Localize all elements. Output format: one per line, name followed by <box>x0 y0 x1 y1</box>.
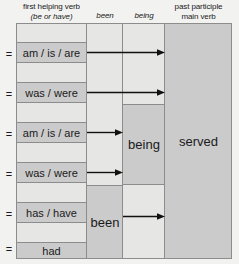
equals-sign-6: = <box>3 243 15 255</box>
helping-verb-cell-had: had <box>16 242 87 259</box>
diagram-grid: am / is / are was / were am / is / are w… <box>16 23 232 259</box>
grid-hline-bottom <box>16 258 232 259</box>
merged-cell-being: being <box>123 104 165 185</box>
grid-hline-top <box>16 23 232 24</box>
merged-cell-been: been <box>87 185 123 258</box>
header-first-helping-verb-line1: first helping verb <box>23 2 80 11</box>
helping-verb-spacer-10 <box>16 223 87 242</box>
grid-vline-right <box>231 23 232 259</box>
header-first-helping-verb-line2: (be or have) <box>31 12 73 21</box>
equals-sign-4: = <box>3 168 15 180</box>
helping-verb-cell-has-have: has / have <box>16 202 87 223</box>
header-past-participle-line2: main verb <box>181 12 215 21</box>
header-first-helping-verb: first helping verb (be or have) <box>16 2 87 21</box>
helping-verb-spacer-8 <box>16 183 87 202</box>
helping-verb-spacer-0 <box>16 23 87 42</box>
helping-verb-cell-was-were-1: was / were <box>16 82 87 103</box>
equals-sign-2: = <box>3 88 15 100</box>
passive-verb-phrase-diagram: first helping verb (be or have) been bei… <box>0 0 239 264</box>
helping-verb-cell-am-is-are-2: am / is / are <box>16 122 87 143</box>
header-past-participle-line1: past participle <box>175 2 223 11</box>
grid-vline-left <box>16 23 17 259</box>
helping-verb-cell-was-were-2: was / were <box>16 162 87 183</box>
grid-vline-3 <box>164 23 165 259</box>
equals-sign-5: = <box>3 208 15 220</box>
header-being: being <box>123 11 165 21</box>
helping-verb-spacer-2 <box>16 63 87 82</box>
equals-sign-1: = <box>3 48 15 60</box>
helping-verb-spacer-4 <box>16 103 87 122</box>
grid-vline-2 <box>122 23 123 259</box>
grid-vline-1 <box>86 23 87 259</box>
merged-cell-served: served <box>165 23 232 259</box>
header-been: been <box>87 11 123 21</box>
equals-sign-3: = <box>3 128 15 140</box>
helping-verb-spacer-6 <box>16 143 87 162</box>
helping-verb-cell-am-is-are-1: am / is / are <box>16 42 87 63</box>
header-past-participle: past participle main verb <box>165 2 232 21</box>
